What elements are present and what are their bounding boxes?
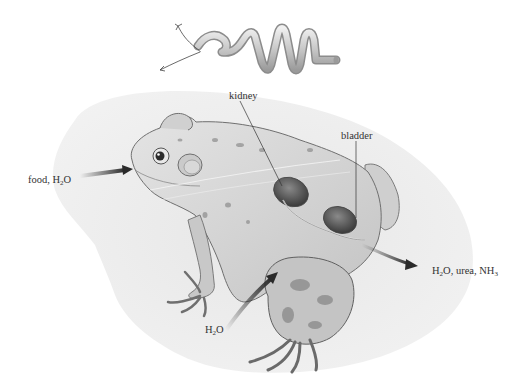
output-label: H2O, urea, NH3 [432, 266, 498, 278]
nephron-tubule-inset [160, 24, 339, 71]
skin-intake-label-text: H [205, 324, 213, 335]
intake-label-suffix: O [64, 174, 72, 185]
intake-label: food, H2O [28, 175, 71, 187]
skin-intake-label-suffix: O [216, 324, 224, 335]
kidney-label: kidney [229, 91, 258, 102]
output-label-subscript-2: 3 [494, 270, 498, 278]
output-label-mid: O, urea, NH [443, 265, 494, 276]
frog-illustration [0, 0, 529, 380]
bladder-label: bladder [341, 131, 373, 142]
output-label-text: H [432, 265, 440, 276]
skin-intake-label: H2O [205, 325, 224, 337]
intake-label-text: food, H [28, 174, 60, 185]
frog-excretion-diagram: food, H2O kidney bladder H2O H2O, urea, … [0, 0, 529, 380]
